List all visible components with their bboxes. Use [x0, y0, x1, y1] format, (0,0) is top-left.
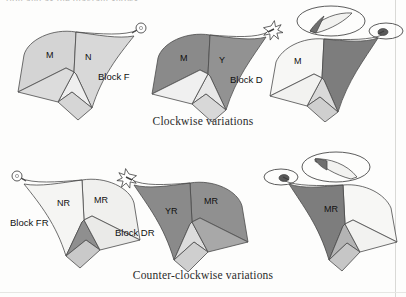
block-fr-label-nr: NR: [57, 198, 70, 208]
block-d-figure: M Y Block D: [138, 10, 283, 128]
block-d-name-label: Block D: [230, 74, 263, 85]
block-d-label-y: Y: [219, 55, 225, 65]
block-dr-figure: YR MR Block DR: [112, 158, 262, 278]
dot-marker-ellipse-icon: [264, 169, 298, 185]
clockwise-detail-geometry: [270, 6, 403, 122]
block-d-sweep-curve: [210, 32, 268, 37]
block-d-label-m: M: [180, 53, 188, 63]
block-fr-name-label: Block FR: [10, 217, 49, 228]
block-dr-name-label: Block DR: [115, 227, 155, 238]
block-dr-geometry: [117, 169, 248, 272]
block-f-name-label: Block F: [98, 71, 130, 82]
block-d-geometry: [152, 21, 283, 122]
dot-marker-ellipse-icon: [369, 23, 403, 39]
block-fr-label-mr: MR: [94, 195, 108, 205]
counter-detail-label-mr: MR: [324, 204, 338, 214]
block-f-figure: M N Block F: [6, 10, 156, 128]
clipped-heading-text: tion and as the diagram shows: [6, 0, 138, 1]
block-dr-label-yr: YR: [165, 206, 178, 216]
block-dr-label-mr: MR: [204, 196, 218, 206]
caption-counter-clockwise: Counter-clockwise variations: [0, 269, 406, 281]
clockwise-detail-figure: M: [266, 4, 406, 122]
detail-callout-ellipse-icon: [302, 152, 370, 182]
block-f-label-m: M: [46, 50, 54, 60]
clockwise-detail-label-m: M: [294, 56, 302, 66]
block-dr-sweep-curve: [132, 180, 190, 185]
figure-root: tion and as the diagram shows M N Block …: [0, 0, 406, 297]
star-marker-icon: [117, 169, 137, 189]
circle-marker-inner-icon: [15, 174, 18, 177]
detail-callout-ellipse-icon: [297, 6, 365, 36]
block-f-label-n: N: [85, 52, 92, 62]
page-edge-bottom: [0, 292, 406, 293]
caption-clockwise: Clockwise variations: [0, 115, 406, 127]
counter-detail-figure: MR: [256, 150, 401, 272]
